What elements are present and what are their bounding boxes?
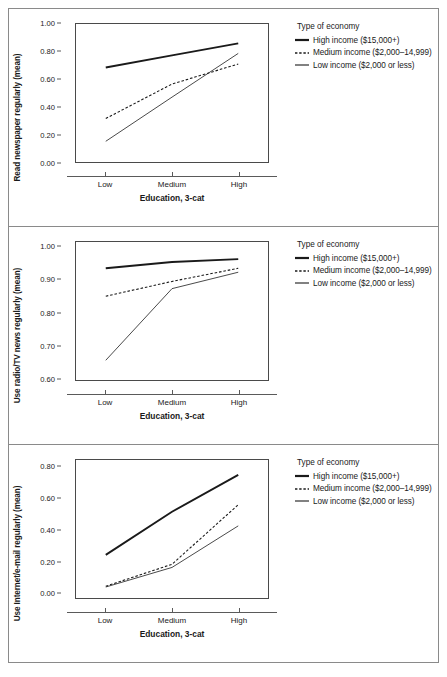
legend-title: Type of economy xyxy=(297,240,432,249)
y-tick-mark xyxy=(57,466,61,467)
x-tick-mark xyxy=(172,172,173,176)
y-tick-label: 0.00 xyxy=(40,589,55,598)
y-axis-title-text: Read newspaper regularly (mean) xyxy=(14,54,23,182)
panel-radio-tv: Use radio/TV news regularly (mean)0.600.… xyxy=(9,226,438,444)
y-axis-ticks: 0.000.200.400.600.80 xyxy=(27,459,61,599)
y-tick-label: 0.60 xyxy=(40,75,55,84)
x-axis-title: Education, 3-cat xyxy=(140,411,205,421)
x-tick-mark xyxy=(172,608,173,612)
plot-area xyxy=(75,459,269,599)
y-tick-label: 0.80 xyxy=(40,462,55,471)
x-tick-mark xyxy=(239,172,240,176)
x-tick-label-high: High xyxy=(231,180,247,189)
series-line-3 xyxy=(106,272,238,360)
y-tick-label: 0.80 xyxy=(40,47,55,56)
legend-item: Low income ($2,000 or less) xyxy=(295,61,432,70)
y-tick-mark xyxy=(57,23,61,24)
series-line-2 xyxy=(106,64,238,119)
y-tick-label: 0.00 xyxy=(40,159,55,168)
x-axis-line xyxy=(67,176,277,177)
y-tick-mark xyxy=(57,379,61,380)
plot-area xyxy=(75,23,269,163)
legend-label: Medium income ($2,000–14,999) xyxy=(313,48,432,57)
legend-label: High income ($15,000+) xyxy=(313,472,400,481)
legend-line-swatch xyxy=(295,267,309,275)
y-tick-label: 0.70 xyxy=(40,342,55,351)
y-tick-label: 0.60 xyxy=(40,493,55,502)
x-tick-label-medium: Medium xyxy=(158,398,186,407)
legend: Type of economyHigh income ($15,000+)Med… xyxy=(295,22,432,73)
legend-line-swatch xyxy=(295,279,309,287)
series-line-1 xyxy=(106,259,238,268)
y-tick-label: 0.20 xyxy=(40,557,55,566)
y-axis-ticks: 0.600.700.800.901.00 xyxy=(27,241,61,381)
legend-label: High income ($15,000+) xyxy=(313,254,400,263)
legend-line-swatch xyxy=(295,36,309,44)
panel-newspaper: Read newspaper regularly (mean)0.000.200… xyxy=(9,9,438,226)
legend-line-swatch xyxy=(295,485,309,493)
legend-label: Medium income ($2,000–14,999) xyxy=(313,484,432,493)
y-tick-mark xyxy=(57,346,61,347)
legend-label: Low income ($2,000 or less) xyxy=(313,279,415,288)
series-line-1 xyxy=(106,43,238,67)
y-tick-label: 0.60 xyxy=(40,375,55,384)
y-tick-label: 0.90 xyxy=(40,275,55,284)
y-tick-mark xyxy=(57,51,61,52)
legend-title: Type of economy xyxy=(297,22,432,31)
y-tick-label: 0.40 xyxy=(40,525,55,534)
legend-item: Medium income ($2,000–14,999) xyxy=(295,266,432,275)
series-canvas xyxy=(76,242,268,380)
y-tick-label: 0.20 xyxy=(40,131,55,140)
x-tick-label-medium: Medium xyxy=(158,616,186,625)
legend: Type of economyHigh income ($15,000+)Med… xyxy=(295,458,432,509)
x-tick-label-low: Low xyxy=(98,180,113,189)
series-line-3 xyxy=(106,53,238,141)
y-axis-title: Use Internet/e-mail regularly (mean) xyxy=(9,445,27,662)
series-line-3 xyxy=(106,526,238,587)
x-axis-line xyxy=(67,394,277,395)
y-tick-mark xyxy=(57,529,61,530)
y-tick-label: 0.40 xyxy=(40,103,55,112)
y-tick-label: 1.00 xyxy=(40,19,55,28)
legend-item: Low income ($2,000 or less) xyxy=(295,279,432,288)
y-axis-title-text: Use Internet/e-mail regularly (mean) xyxy=(14,486,23,622)
x-axis-title: Education, 3-cat xyxy=(140,193,205,203)
legend: Type of economyHigh income ($15,000+)Med… xyxy=(295,240,432,291)
series-line-2 xyxy=(106,268,238,296)
y-tick-mark xyxy=(57,107,61,108)
x-tick-label-low: Low xyxy=(98,616,113,625)
y-axis-title-text: Use radio/TV news regularly (mean) xyxy=(14,268,23,403)
y-tick-label: 1.00 xyxy=(40,242,55,251)
figure-frame: Read newspaper regularly (mean)0.000.200… xyxy=(8,8,439,663)
y-tick-mark xyxy=(57,163,61,164)
legend-label: Low income ($2,000 or less) xyxy=(313,497,415,506)
x-tick-mark xyxy=(239,390,240,394)
y-tick-mark xyxy=(57,279,61,280)
legend-item: High income ($15,000+) xyxy=(295,254,432,263)
x-tick-mark xyxy=(105,608,106,612)
legend-title: Type of economy xyxy=(297,458,432,467)
y-tick-label: 0.80 xyxy=(40,308,55,317)
legend-item: High income ($15,000+) xyxy=(295,472,432,481)
legend-line-swatch xyxy=(295,49,309,57)
legend-line-swatch xyxy=(295,61,309,69)
y-axis-title: Read newspaper regularly (mean) xyxy=(9,9,27,226)
y-axis-ticks: 0.000.200.400.600.801.00 xyxy=(27,23,61,163)
y-tick-mark xyxy=(57,497,61,498)
y-tick-mark xyxy=(57,561,61,562)
x-axis-title: Education, 3-cat xyxy=(140,629,205,639)
x-tick-mark xyxy=(172,390,173,394)
y-axis-title: Use radio/TV news regularly (mean) xyxy=(9,227,27,444)
legend-line-swatch xyxy=(295,497,309,505)
legend-label: Medium income ($2,000–14,999) xyxy=(313,266,432,275)
legend-label: Low income ($2,000 or less) xyxy=(313,61,415,70)
panel-internet: Use Internet/e-mail regularly (mean)0.00… xyxy=(9,444,438,662)
x-tick-label-medium: Medium xyxy=(158,180,186,189)
plot-area xyxy=(75,241,269,381)
x-axis-line xyxy=(67,612,277,613)
x-tick-label-high: High xyxy=(231,616,247,625)
legend-line-swatch xyxy=(295,254,309,262)
series-line-1 xyxy=(106,475,238,555)
x-tick-mark xyxy=(239,608,240,612)
y-tick-mark xyxy=(57,79,61,80)
